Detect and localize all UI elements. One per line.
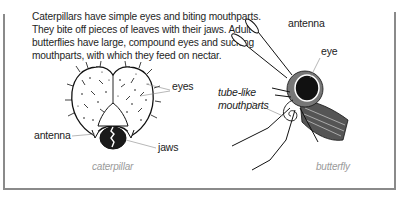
butterfly-eye-label: eye <box>321 45 337 57</box>
butterfly-antenna-label: antenna <box>288 17 325 29</box>
caterpillar-antenna-label: antenna <box>34 129 71 141</box>
caterpillar-jaws-label: jaws <box>158 141 178 153</box>
butterfly-mouthparts-label-line2: mouthparts <box>218 99 269 111</box>
caterpillar-caption: caterpillar <box>92 161 133 172</box>
butterfly-mouthparts-label-line1: tube-like <box>218 86 256 98</box>
caterpillar-head-icon <box>65 61 170 149</box>
butterfly-caption: butterfly <box>316 161 350 172</box>
caterpillar-eyes-label: eyes <box>172 80 193 92</box>
